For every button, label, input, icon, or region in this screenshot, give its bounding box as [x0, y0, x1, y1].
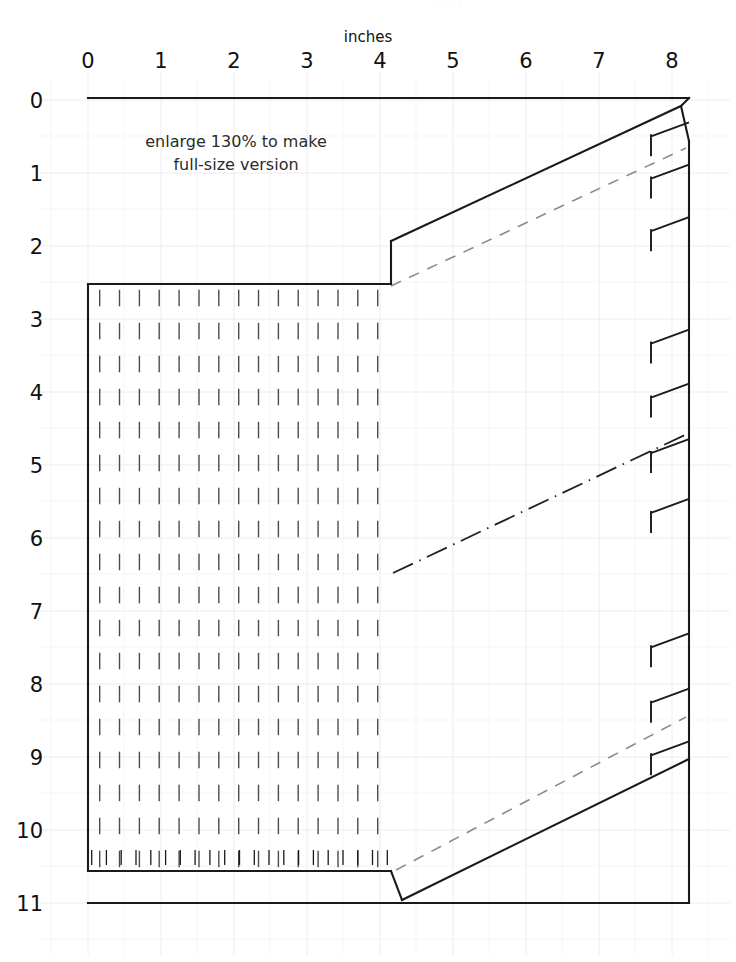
notch-1 [651, 165, 689, 199]
y-tick-label-3: 3 [30, 308, 43, 332]
y-tick-label-8: 8 [30, 673, 43, 697]
y-tick-label-7: 7 [30, 600, 43, 624]
notch-6 [651, 499, 689, 533]
x-tick-label-7: 7 [592, 49, 605, 73]
x-tick-label-5: 5 [446, 49, 459, 73]
y-tick-label-0: 0 [30, 89, 43, 113]
y-tick-label-4: 4 [30, 381, 43, 405]
enlarge-note-line1: enlarge 130% to make [145, 132, 327, 151]
right-edge-notches [651, 122, 689, 775]
y-tick-label-2: 2 [30, 235, 43, 259]
notch-5 [651, 439, 689, 473]
pattern-diagram-canvas: · · · · · [0, 0, 736, 962]
upper-seam-allowance-line [391, 148, 686, 286]
y-tick-label-11: 11 [16, 892, 43, 916]
cropped-header-text: · · · · · [430, 0, 461, 11]
x-tick-label-0: 0 [81, 49, 94, 73]
notch-7 [651, 633, 689, 667]
y-tick-label-6: 6 [30, 527, 43, 551]
x-tick-label-8: 8 [665, 49, 678, 73]
bottom-edge-ticks [92, 850, 388, 865]
background-grid [40, 72, 730, 955]
notch-0 [651, 122, 689, 156]
y-tick-label-9: 9 [30, 746, 43, 770]
y-tick-label-5: 5 [30, 454, 43, 478]
pattern-svg: · · · · · [0, 0, 736, 962]
gathering-hatch [100, 290, 378, 867]
x-tick-label-3: 3 [300, 49, 313, 73]
x-axis-labels: 0 1 2 3 4 5 6 7 8 [81, 49, 678, 73]
x-tick-label-4: 4 [373, 49, 386, 73]
y-tick-label-10: 10 [16, 819, 43, 843]
x-tick-label-2: 2 [227, 49, 240, 73]
x-tick-label-6: 6 [519, 49, 532, 73]
center-fold-dash-dot-line [393, 434, 687, 573]
ruler-unit-title: inches [344, 28, 393, 46]
notch-3 [651, 330, 689, 364]
notch-9 [651, 741, 689, 775]
enlarge-note-line2: full-size version [173, 155, 298, 174]
x-tick-label-1: 1 [154, 49, 167, 73]
y-axis-labels: 0 1 2 3 4 5 6 7 8 9 10 11 [16, 89, 43, 916]
notch-4 [651, 384, 689, 418]
y-tick-label-1: 1 [30, 162, 43, 186]
grid-major-vertical [88, 72, 672, 955]
